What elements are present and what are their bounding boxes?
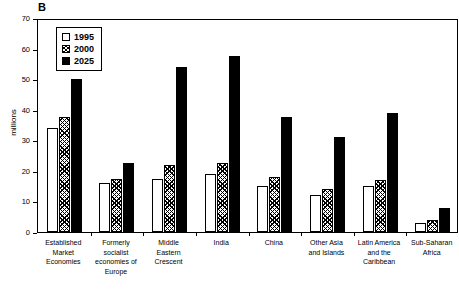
bar-group (196, 20, 249, 232)
bar-2025 (71, 79, 82, 232)
bar-1995 (152, 179, 163, 233)
x-axis-label: Sub-SaharanAfrica (405, 238, 458, 257)
x-axis-label: Latin Americaand theCaribbean (353, 238, 406, 267)
legend-item-2000: 2000 (62, 43, 94, 55)
legend-label-1995: 1995 (74, 32, 94, 42)
bar-group (354, 20, 407, 232)
bar-2000 (164, 165, 175, 232)
bar-2000 (269, 177, 280, 232)
x-tick-mark (249, 232, 250, 236)
x-tick-mark (354, 232, 355, 236)
bar-2000 (427, 220, 438, 232)
bar-group (249, 20, 302, 232)
bar-chart: millions 010203040506070 1995 2000 2025 … (0, 0, 459, 297)
y-tick-label: 40 (22, 107, 30, 115)
bar-1995 (415, 223, 426, 232)
x-axis-label: EstablishedMarketEconomies (37, 238, 90, 267)
bar-2025 (387, 113, 398, 232)
bar-group (406, 20, 459, 232)
x-axis-labels: EstablishedMarketEconomiesFormerlysocial… (37, 238, 458, 296)
legend-item-2025: 2025 (62, 55, 94, 67)
x-axis-label: Formerlysocialisteconomies ofEurope (90, 238, 143, 276)
bar-2025 (123, 163, 134, 232)
y-tick-label: 70 (22, 15, 30, 23)
y-tick-label: 50 (22, 76, 30, 84)
y-tick-label: 30 (22, 137, 30, 145)
x-tick-mark (196, 232, 197, 236)
y-tick-label: 0 (26, 229, 30, 237)
x-axis-label: MiddleEasternCrescent (142, 238, 195, 267)
bar-2000 (322, 189, 333, 232)
bar-2025 (229, 56, 240, 232)
plot-area: 1995 2000 2025 (37, 19, 458, 233)
y-tick-mark (33, 233, 37, 234)
bar-group (143, 20, 196, 232)
bar-1995 (310, 195, 321, 232)
y-tick-label: 20 (22, 168, 30, 176)
y-axis-ticks: 010203040506070 (0, 19, 37, 233)
legend-swatch-2000 (62, 45, 70, 53)
bar-2000 (217, 163, 228, 232)
legend-item-1995: 1995 (62, 31, 94, 43)
x-tick-mark (91, 232, 92, 236)
bar-2025 (176, 67, 187, 232)
bar-1995 (205, 174, 216, 232)
y-tick-label: 10 (22, 198, 30, 206)
legend-label-2000: 2000 (74, 44, 94, 54)
bar-2025 (281, 117, 292, 232)
legend: 1995 2000 2025 (56, 27, 102, 71)
bar-1995 (99, 183, 110, 232)
bar-1995 (47, 128, 58, 232)
legend-swatch-2025 (62, 57, 70, 65)
bar-2025 (334, 137, 345, 232)
bar-1995 (257, 186, 268, 232)
bar-2000 (111, 179, 122, 233)
x-tick-mark (301, 232, 302, 236)
bar-2025 (439, 208, 450, 232)
legend-label-2025: 2025 (74, 56, 94, 66)
x-axis-label: India (195, 238, 248, 248)
bar-1995 (363, 186, 374, 232)
y-tick-label: 60 (22, 46, 30, 54)
x-tick-mark (143, 232, 144, 236)
x-tick-mark (406, 232, 407, 236)
x-axis-label: China (248, 238, 301, 248)
bar-2000 (375, 180, 386, 232)
bar-2000 (59, 117, 70, 232)
legend-swatch-1995 (62, 33, 70, 41)
bar-group (301, 20, 354, 232)
x-axis-label: Other Asiaand Islands (300, 238, 353, 257)
